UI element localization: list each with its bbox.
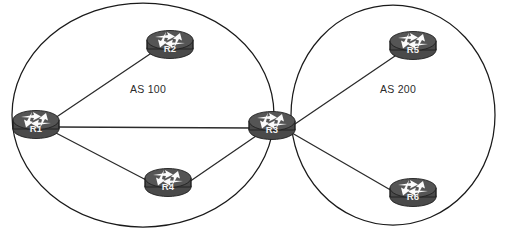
router-label-r6: R6 [407, 191, 420, 202]
router-label-r4: R4 [162, 181, 175, 192]
router-r3[interactable]: R3 [249, 112, 295, 140]
router-label-r1: R1 [30, 123, 43, 134]
router-r6[interactable]: R6 [390, 179, 436, 207]
network-diagram: AS 100 AS 200 R1 [0, 0, 505, 230]
link-r1-r3 [57, 127, 252, 128]
router-r1[interactable]: R1 [13, 111, 59, 139]
router-r4[interactable]: R4 [145, 169, 191, 197]
router-label-r2: R2 [164, 43, 177, 54]
diagram-canvas: AS 100 AS 200 R1 [0, 0, 505, 230]
as-label-as100: AS 100 [130, 83, 166, 95]
router-label-r5: R5 [407, 44, 420, 55]
as-label-group: AS 100 AS 200 [130, 83, 416, 95]
as-label-as200: AS 200 [380, 83, 416, 95]
link-group [55, 52, 395, 192]
router-r5[interactable]: R5 [390, 32, 436, 60]
link-r4-r3 [189, 136, 256, 182]
router-label-r3: R3 [266, 124, 279, 135]
link-r1-r4 [56, 133, 150, 182]
link-r3-r6 [292, 133, 394, 192]
router-r2[interactable]: R2 [147, 31, 193, 59]
